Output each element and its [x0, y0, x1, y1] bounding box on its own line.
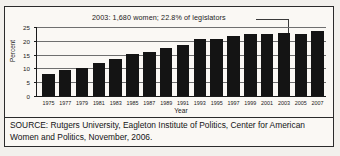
- source-note: SOURCE: Rutgers University, Eagleton Ins…: [10, 120, 328, 143]
- source-divider: [5, 117, 333, 118]
- x-tick-label: 1975: [42, 100, 54, 106]
- bar: [210, 39, 222, 96]
- bar: [93, 63, 105, 96]
- plot-area: 0510152025197519771979198119831985198719…: [36, 27, 326, 97]
- bar: [295, 34, 307, 96]
- y-tick-mark: [34, 27, 37, 28]
- annotation-leader-horizontal: [256, 19, 289, 20]
- bar: [177, 45, 189, 96]
- bar: [109, 59, 121, 96]
- gridline: [36, 27, 326, 28]
- x-tick-label: 1987: [143, 100, 155, 106]
- y-axis-title: Percent: [9, 40, 16, 62]
- y-tick-label: 0: [16, 93, 30, 100]
- x-tick-label: 1985: [127, 100, 139, 106]
- bar: [311, 31, 323, 96]
- bar: [76, 68, 88, 96]
- y-tick-label: 25: [16, 24, 30, 31]
- bar: [278, 33, 290, 96]
- bar: [42, 74, 54, 96]
- callout-annotation: 2003: 1,680 women; 22.8% of legislators: [92, 13, 226, 22]
- x-tick-label: 1981: [93, 100, 105, 106]
- y-tick-mark: [34, 68, 37, 69]
- x-tick-label: 1997: [227, 100, 239, 106]
- y-tick-mark: [34, 82, 37, 83]
- x-tick-label: 1979: [76, 100, 88, 106]
- x-tick-label: 1993: [194, 100, 206, 106]
- bar: [194, 39, 206, 96]
- y-tick-label: 10: [16, 65, 30, 72]
- x-axis-title: Year: [36, 107, 326, 114]
- y-tick-mark: [34, 96, 37, 97]
- x-axis-line: [36, 96, 326, 97]
- x-tick-label: 1991: [177, 100, 189, 106]
- y-tick-mark: [34, 55, 37, 56]
- bar: [261, 34, 273, 96]
- y-axis-line: [36, 27, 37, 97]
- y-tick-label: 20: [16, 37, 30, 44]
- x-tick-label: 2003: [278, 100, 290, 106]
- x-tick-label: 1999: [244, 100, 256, 106]
- y-tick-label: 15: [16, 51, 30, 58]
- bar: [126, 54, 138, 96]
- y-tick-label: 5: [16, 79, 30, 86]
- bar: [244, 34, 256, 96]
- bar: [160, 48, 172, 96]
- bar: [227, 36, 239, 96]
- bar: [143, 52, 155, 96]
- x-tick-label: 2005: [295, 100, 307, 106]
- x-tick-label: 1983: [110, 100, 122, 106]
- y-tick-mark: [34, 41, 37, 42]
- x-tick-label: 2007: [312, 100, 324, 106]
- figure-container: 2003: 1,680 women; 22.8% of legislators …: [0, 0, 340, 156]
- x-tick-label: 1977: [59, 100, 71, 106]
- x-tick-label: 1989: [160, 100, 172, 106]
- x-tick-label: 1995: [211, 100, 223, 106]
- bar: [59, 70, 71, 96]
- x-tick-label: 2001: [261, 100, 273, 106]
